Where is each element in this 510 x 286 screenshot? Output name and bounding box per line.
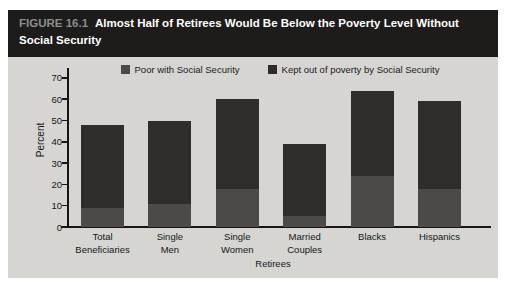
bar-segment-kept [81, 125, 124, 208]
bar-segment-poor [81, 208, 124, 227]
bar-segment-kept [418, 101, 461, 188]
y-tick-label: 60 [36, 94, 62, 105]
bar-segment-kept [351, 91, 394, 176]
bar-segment-poor [418, 189, 461, 227]
y-tick [62, 205, 67, 207]
y-tick [62, 98, 67, 100]
y-tick-label: 10 [36, 200, 62, 211]
bar-segment-kept [148, 121, 191, 204]
plot-area: 010203040506070Total BeneficiariesSingle… [8, 10, 498, 278]
y-axis-title: Percent [35, 118, 47, 162]
y-tick [62, 226, 67, 228]
y-tick-label: 20 [36, 179, 62, 190]
y-tick-label: 70 [36, 72, 62, 83]
y-axis-line [67, 68, 69, 228]
bar-segment-kept [283, 144, 326, 216]
figure-16-1: FIGURE 16.1Almost Half of Retirees Would… [8, 10, 498, 278]
bar-segment-poor [351, 176, 394, 227]
y-tick-label: 0 [36, 222, 62, 233]
bar-segment-poor [216, 189, 259, 227]
x-axis-title: Retirees [233, 258, 313, 269]
y-tick [62, 120, 67, 122]
y-tick [62, 162, 67, 164]
bar-segment-kept [216, 99, 259, 188]
bar-segment-poor [148, 204, 191, 227]
x-category-label: Hispanics [400, 231, 480, 244]
y-tick [62, 184, 67, 186]
y-tick [62, 141, 67, 143]
y-tick [62, 77, 67, 79]
bar-segment-poor [283, 216, 326, 227]
